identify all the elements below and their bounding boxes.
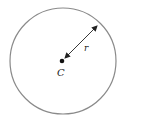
radius-label: r: [84, 43, 89, 53]
center-label: C: [57, 67, 65, 78]
center-point: [60, 59, 65, 64]
radius-arrow: [65, 26, 97, 58]
circle-diagram: C r: [0, 0, 142, 122]
